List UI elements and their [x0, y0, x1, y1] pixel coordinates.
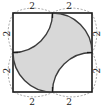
dimension-label-top-right: 2 [63, 2, 75, 11]
dimension-label-left-top: 2 [3, 28, 12, 40]
dimension-label-right-top: 2 [93, 28, 102, 40]
dimension-label-top-left: 2 [26, 2, 38, 11]
figure-canvas [0, 0, 105, 111]
dimension-label-bottom-right: 2 [63, 98, 75, 107]
dimension-label-right-bottom: 2 [93, 65, 102, 77]
geometry-figure: 2 2 2 2 2 2 2 2 [0, 0, 105, 111]
dimension-label-bottom-left: 2 [26, 98, 38, 107]
dimension-label-left-bottom: 2 [3, 65, 12, 77]
